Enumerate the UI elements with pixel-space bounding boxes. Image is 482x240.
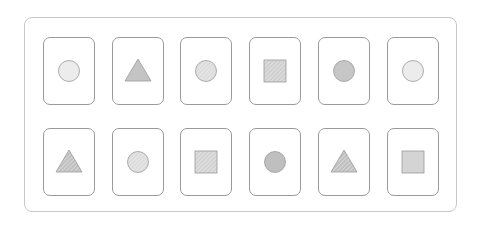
triangle-icon [331, 150, 357, 172]
circle-icon [59, 61, 80, 82]
triangle-icon [44, 129, 94, 195]
square-icon [250, 38, 300, 104]
card-square-hatched[interactable] [180, 128, 232, 196]
triangle-icon [125, 59, 151, 81]
circle-icon [250, 129, 300, 195]
card-square-hatched[interactable] [249, 37, 301, 105]
card-triangle-hatched[interactable] [318, 128, 370, 196]
square-icon [195, 151, 217, 173]
circle-icon [403, 61, 424, 82]
triangle-icon [113, 38, 163, 104]
card-circle-hatched[interactable] [112, 128, 164, 196]
card-triangle-hatched[interactable] [43, 128, 95, 196]
circle-icon [181, 38, 231, 104]
card-circle-hatched[interactable] [180, 37, 232, 105]
circle-icon [388, 38, 438, 104]
triangle-icon [56, 150, 82, 172]
card-circle-solid[interactable] [387, 37, 439, 105]
card-circle-solid[interactable] [318, 37, 370, 105]
circle-icon [334, 61, 355, 82]
triangle-icon [319, 129, 369, 195]
card-triangle-solid[interactable] [112, 37, 164, 105]
circle-icon [128, 152, 149, 173]
card-square-solid[interactable] [387, 128, 439, 196]
square-icon [181, 129, 231, 195]
circle-icon [319, 38, 369, 104]
circle-icon [113, 129, 163, 195]
circle-icon [265, 152, 286, 173]
square-icon [388, 129, 438, 195]
square-icon [402, 151, 424, 173]
circle-icon [196, 61, 217, 82]
circle-icon [44, 38, 94, 104]
square-icon [264, 60, 286, 82]
card-circle-solid[interactable] [43, 37, 95, 105]
card-circle-solid[interactable] [249, 128, 301, 196]
